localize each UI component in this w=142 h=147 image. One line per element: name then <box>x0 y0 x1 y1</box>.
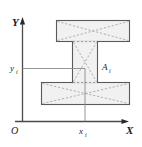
x-tick-label: x i <box>78 126 87 138</box>
x-tick-letter: x <box>78 126 83 136</box>
area-label-letter: A <box>101 62 108 72</box>
figure-container: Y X O y i x i A i <box>0 0 142 147</box>
area-label-subscript: i <box>109 68 111 74</box>
y-tick-subscript: i <box>16 69 18 75</box>
y-tick-letter: y <box>9 63 14 73</box>
cross-section-diagram: Y X O y i x i A i <box>0 0 142 147</box>
y-axis-label: Y <box>12 16 20 28</box>
area-label: A i <box>101 62 111 74</box>
y-axis-arrowhead <box>20 17 25 25</box>
y-tick-label: y i <box>9 63 18 75</box>
x-tick-subscript: i <box>85 132 87 138</box>
origin-label: O <box>11 125 18 136</box>
x-axis-label: X <box>125 124 134 136</box>
